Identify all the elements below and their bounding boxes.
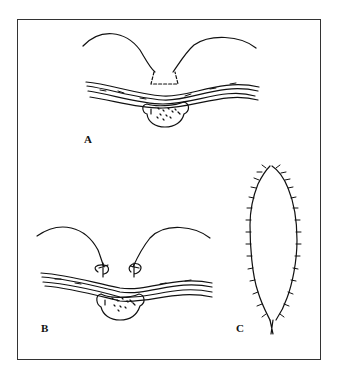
panel-a-excision-dashed [151, 72, 178, 84]
panel-b-suture-left [95, 263, 108, 277]
panel-b-label: B [41, 322, 48, 334]
panel-a-drawing [83, 34, 259, 127]
panel-c-drawing [246, 165, 301, 334]
figure-illustration [0, 0, 339, 374]
panel-b-suture-right [129, 263, 141, 277]
panel-c-right-edge [272, 166, 297, 320]
panel-a-left-flap [83, 34, 155, 72]
panel-c-label: C [236, 322, 244, 334]
panel-a-label: A [84, 133, 92, 145]
panel-c-left-edge [250, 166, 270, 320]
panel-a-right-flap [173, 37, 256, 72]
panel-b-drawing [37, 227, 212, 320]
